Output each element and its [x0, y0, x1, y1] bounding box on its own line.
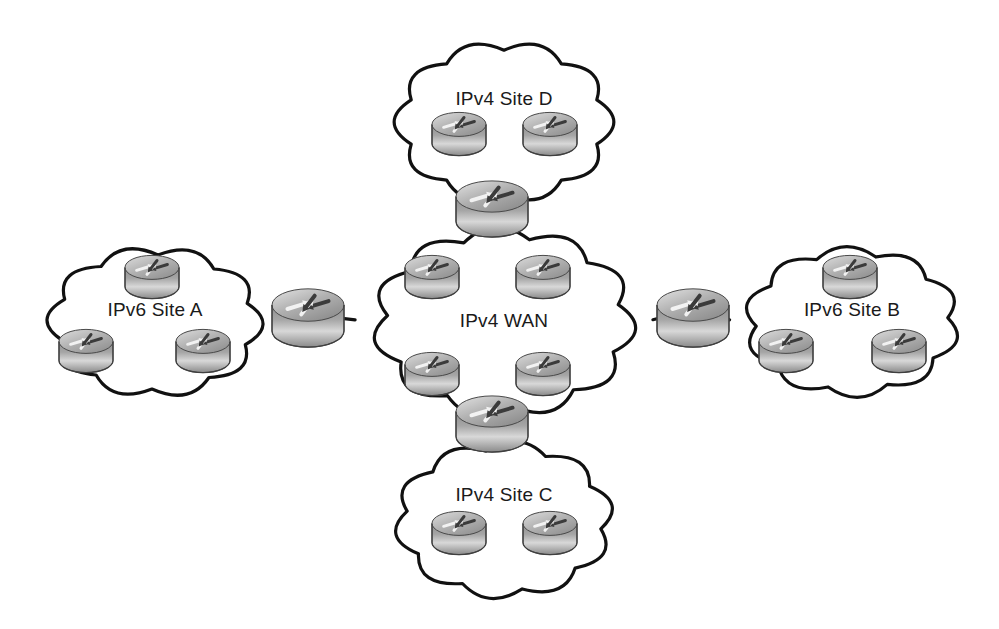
north-edge-router — [456, 181, 528, 237]
router-ipv4-wan-2 — [516, 255, 570, 298]
router-site-c-1 — [432, 511, 486, 554]
network-diagram-canvas: IPv4 Site DIPv4 WANIPv4 Site CIPv6 Site … — [0, 0, 999, 629]
router-site-b-2 — [759, 329, 813, 372]
cloud-label-site-c: IPv4 Site C — [455, 484, 552, 505]
router-site-b-1 — [823, 255, 877, 298]
cloud-site-c[interactable]: IPv4 Site C — [396, 441, 613, 598]
cloud-ipv4-wan[interactable]: IPv4 WAN — [374, 227, 635, 415]
router-site-a-1 — [125, 255, 179, 298]
clouds-layer: IPv4 Site DIPv4 WANIPv4 Site CIPv6 Site … — [47, 44, 958, 598]
cloud-site-a[interactable]: IPv6 Site A — [47, 249, 263, 396]
west-edge-router — [272, 289, 344, 347]
cloud-site-b[interactable]: IPv6 Site B — [747, 247, 958, 398]
router-site-b-3 — [872, 329, 926, 372]
router-site-d-2 — [523, 112, 577, 155]
cloud-outline — [394, 44, 614, 200]
router-ipv4-wan-4 — [516, 352, 570, 395]
router-site-d-1 — [432, 112, 486, 155]
cloud-label-site-b: IPv6 Site B — [804, 299, 900, 320]
cloud-outline — [396, 441, 613, 598]
router-ipv4-wan-1 — [405, 255, 459, 298]
network-topology-diagram: IPv4 Site DIPv4 WANIPv4 Site CIPv6 Site … — [0, 0, 999, 629]
router-site-c-2 — [523, 511, 577, 554]
router-ipv4-wan-3 — [405, 352, 459, 395]
router-site-a-3 — [176, 329, 230, 372]
cloud-site-d[interactable]: IPv4 Site D — [394, 44, 614, 200]
cloud-label-site-a: IPv6 Site A — [107, 299, 202, 320]
east-edge-router — [657, 289, 729, 347]
south-edge-router — [456, 396, 528, 452]
cloud-label-site-d: IPv4 Site D — [455, 88, 552, 109]
router-site-a-2 — [59, 329, 113, 372]
cloud-label-ipv4-wan: IPv4 WAN — [460, 310, 549, 331]
